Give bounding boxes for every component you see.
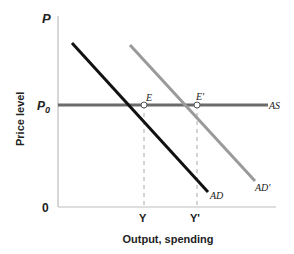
p0-label: P0 [37, 99, 50, 115]
point-e-prime-label: E' [195, 91, 205, 102]
ad-prime-curve [130, 45, 255, 181]
origin-label: 0 [42, 201, 49, 215]
x-tick-y-prime: Y' [190, 212, 200, 224]
equilibrium-point-e-prime [194, 102, 200, 108]
ad-as-diagram: P P0 0 Price level Y Y' Output, spending… [0, 0, 294, 254]
y-axis-top-label: P [42, 11, 51, 26]
y-axis-label: Price level [14, 92, 26, 146]
ad-curve [72, 43, 208, 192]
x-tick-y: Y [139, 212, 147, 224]
ad-prime-label: AD' [254, 182, 271, 193]
point-e-label: E [145, 92, 152, 103]
as-label: AS [268, 100, 280, 111]
x-axis-label: Output, spending [122, 233, 213, 245]
ad-label: AD [209, 190, 224, 201]
